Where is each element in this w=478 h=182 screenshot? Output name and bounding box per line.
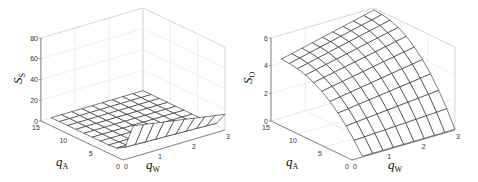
qa-tick-label: 15	[32, 124, 40, 131]
qa-tick-label: 0	[116, 163, 120, 170]
surface-plots: 0204060800510150123 02460510150123 SS qA…	[0, 0, 478, 182]
z-tick-label: 20	[30, 97, 38, 104]
qw-tick-label: 3	[226, 133, 230, 140]
y-axis-label-qa-right: qA	[286, 154, 299, 171]
z-tick-label: 2	[264, 90, 268, 97]
qw-tick-label: 3	[456, 133, 460, 140]
z-tick-label: 40	[30, 76, 38, 83]
qa-axis	[271, 121, 352, 160]
x-axis-label-qw-right: qW	[388, 157, 403, 174]
qa-tick-label: 0	[345, 163, 349, 170]
surface-plot-so: 02460510150123	[262, 8, 460, 170]
qw-tick-label: 2	[192, 143, 196, 150]
qa-tick-label: 10	[59, 137, 67, 144]
z-axis-label-ss: SS	[10, 73, 27, 84]
qw-tick-label: 0	[124, 163, 128, 170]
qa-tick-label: 15	[262, 124, 270, 131]
z-tick-label: 80	[30, 35, 38, 42]
qw-tick-label: 0	[353, 163, 357, 170]
z-tick-label: 60	[30, 55, 38, 62]
y-axis-label-qa-left: qA	[56, 154, 69, 171]
z-tick-label: 4	[264, 62, 268, 69]
surface-plot-ss: 0204060800510150123	[30, 8, 230, 170]
qa-tick-label: 5	[318, 150, 322, 157]
qa-tick-label: 10	[289, 137, 297, 144]
z-tick-label: 6	[264, 35, 268, 42]
z-axis-label-so: SO	[240, 72, 257, 85]
qw-tick-label: 2	[422, 143, 426, 150]
qw-tick-label: 1	[158, 153, 162, 160]
qa-tick-label: 5	[89, 150, 93, 157]
